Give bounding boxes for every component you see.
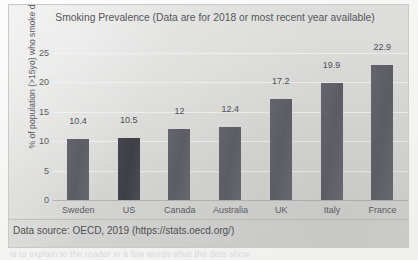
x-tick-label: UK [256,205,307,215]
y-tick-label: 10 [23,136,49,146]
data-source-caption: Data source: OECD, 2019 (https://stats.o… [13,225,234,236]
bar-value-label: 12 [153,106,205,116]
bar-group: 19.9 [307,53,358,200]
bar[interactable] [371,65,393,200]
x-tick-label: Italy [307,205,358,215]
bar[interactable] [219,127,241,200]
bar[interactable] [168,129,190,200]
bar-group: 12 [154,53,205,200]
bar-value-label: 22.9 [356,42,408,52]
chart-figure: Smoking Prevalence (Data are for 2018 or… [8,4,409,248]
y-tick-label: 25 [23,48,49,58]
bar-value-label: 10.4 [52,116,104,126]
chart-title-line-1: Smoking Prevalence (Data are for 2018 or… [55,12,327,23]
bar-group: 22.9 [357,53,408,200]
bar-group: 10.5 [104,53,155,200]
bar-value-label: 17.2 [255,76,307,86]
y-tick-label: 0 [23,195,49,205]
bar-group: 17.2 [256,53,307,200]
x-tick-label: France [357,205,408,215]
x-axis-category-labels: SwedenUSCanadaAustraliaUKItalyFrance [53,205,408,223]
plot-area: 10.410.51212.417.219.922.9 [53,53,408,200]
y-tick-label: 20 [23,77,49,87]
x-tick-label: Australia [205,205,256,215]
x-tick-label: US [104,205,155,215]
x-axis-line [53,200,408,201]
bar-group: 10.4 [53,53,104,200]
bar-value-label: 19.9 [306,60,358,70]
bar[interactable] [118,138,140,200]
x-tick-label: Sweden [53,205,104,215]
chart-title-line-2: available) [331,12,375,23]
bar[interactable] [321,83,343,200]
x-tick-label: Canada [154,205,205,215]
background-bleed-text: is to explain to the reader in a few wor… [10,249,410,259]
chart-title: Smoking Prevalence (Data are for 2018 or… [55,11,375,25]
bar-group: 12.4 [205,53,256,200]
footer-divider [9,219,408,220]
photo-background: Smoking Prevalence (Data are for 2018 or… [0,0,418,260]
bar-value-label: 10.5 [103,115,155,125]
bar[interactable] [67,139,89,200]
bar[interactable] [270,99,292,200]
y-tick-label: 15 [23,107,49,117]
bar-value-label: 12.4 [204,104,256,114]
y-tick-label: 5 [23,166,49,176]
y-axis-tick-labels: 0510152025 [19,53,49,200]
